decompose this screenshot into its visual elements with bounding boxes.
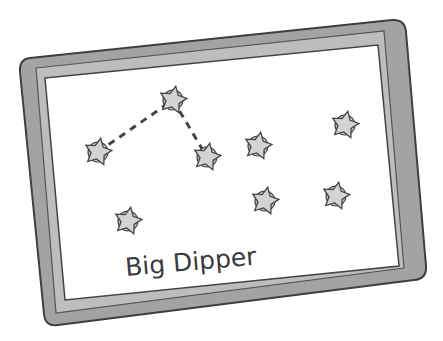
illustration: Big Dipper <box>0 0 443 341</box>
framed-board: Big Dipper <box>0 0 443 341</box>
